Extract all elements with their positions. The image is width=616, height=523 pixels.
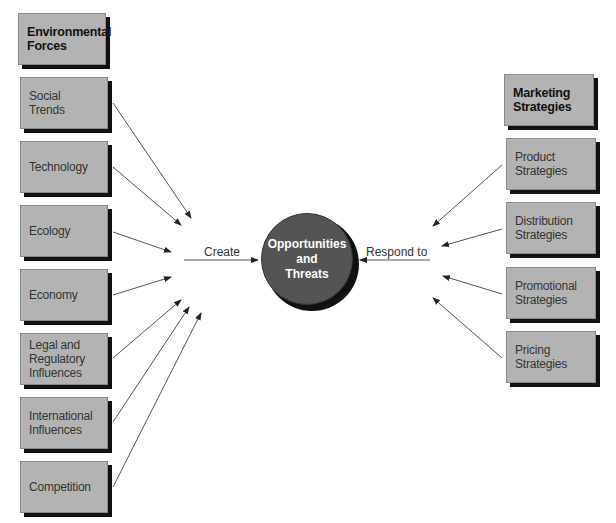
box-distribution-strategies: Distribution Strategies xyxy=(506,202,596,254)
diagram-canvas: Environmental Forces Social Trends Techn… xyxy=(0,0,616,523)
arrow-ecology xyxy=(113,232,171,252)
arrow-social-trends xyxy=(113,103,191,218)
arrow-product xyxy=(433,165,502,226)
arrow-technology xyxy=(113,167,181,225)
opportunities-threats-circle: Opportunities and Threats xyxy=(261,213,353,305)
box-pricing-strategies: Pricing Strategies xyxy=(506,331,596,383)
arrow-legal xyxy=(113,300,181,358)
box-ecology: Ecology xyxy=(20,205,108,257)
arrow-competition xyxy=(113,313,201,487)
respond-to-label: Respond to xyxy=(366,245,427,259)
box-international: International Influences xyxy=(20,397,108,449)
box-product-strategies: Product Strategies xyxy=(506,138,596,190)
arrow-pricing xyxy=(433,298,502,358)
box-technology: Technology xyxy=(20,141,108,193)
box-promotional-strategies: Promotional Strategies xyxy=(506,267,596,319)
environmental-forces-header: Environmental Forces xyxy=(18,13,106,65)
box-competition: Competition xyxy=(20,461,108,513)
create-label: Create xyxy=(204,245,240,259)
marketing-strategies-header: Marketing Strategies xyxy=(504,74,594,126)
arrow-distribution xyxy=(442,229,502,246)
box-legal-regulatory: Legal and Regulatory Influences xyxy=(20,333,108,385)
arrow-economy xyxy=(113,277,171,295)
arrow-promotional xyxy=(443,276,502,294)
box-social-trends: Social Trends xyxy=(20,77,108,129)
box-economy: Economy xyxy=(20,269,108,321)
arrow-international xyxy=(113,307,189,422)
